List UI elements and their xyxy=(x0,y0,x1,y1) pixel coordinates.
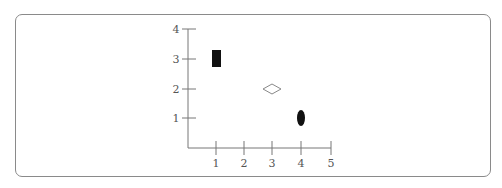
y-tick-label-4: 4 xyxy=(173,23,180,36)
marker-ellipse-4-1 xyxy=(297,110,305,126)
y-tick-label-3: 3 xyxy=(173,53,180,66)
marker-rectangle-1-3 xyxy=(212,50,221,67)
y-tick-label-1: 1 xyxy=(173,112,180,125)
y-tick-labels: 4 3 2 1 xyxy=(173,23,180,125)
y-ticks xyxy=(182,29,196,118)
x-tick-label-5: 5 xyxy=(328,157,335,170)
scatter-plot: 4 3 2 1 1 2 3 4 5 xyxy=(0,0,502,188)
x-tick-label-3: 3 xyxy=(269,157,276,170)
x-tick-labels: 1 2 3 4 5 xyxy=(213,157,335,170)
x-tick-label-4: 4 xyxy=(298,157,305,170)
x-tick-label-1: 1 xyxy=(213,157,220,170)
marker-diamond-3-2 xyxy=(263,84,281,94)
y-tick-label-2: 2 xyxy=(173,83,180,96)
x-tick-label-2: 2 xyxy=(241,157,248,170)
